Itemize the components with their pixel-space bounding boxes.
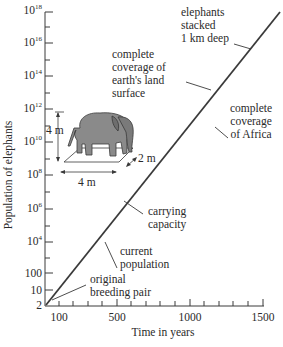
- y-tick-label-2: 2: [36, 299, 42, 311]
- annotation-original-breeding-pair: original breeding pair: [90, 273, 151, 299]
- elephant-inset: [55, 112, 137, 174]
- y-tick-label-1e8: 108: [27, 168, 42, 180]
- y-tick-label-1e6: 106: [27, 202, 42, 214]
- x-tick-label-1500: 1500: [252, 311, 275, 323]
- y-ticks: [45, 12, 53, 290]
- y-tick-label-1e14: 1014: [24, 69, 43, 81]
- y-tick-label-1e18: 1018: [24, 4, 43, 16]
- annotation-current-population: current population: [120, 245, 169, 271]
- y-tick-label-1e10: 1010: [24, 135, 43, 147]
- y-tick-label-1e16: 1016: [24, 36, 43, 48]
- y-tick-label-1e4: 104: [27, 235, 42, 247]
- inset-width-label: 4 m: [78, 176, 96, 189]
- x-ticks: [59, 299, 263, 306]
- annotation-coverage-earth: complete coverage of earth's land surfac…: [112, 48, 166, 100]
- x-axis-label: Time in years: [132, 326, 195, 338]
- annotation-coverage-africa: complete coverage of Africa: [230, 102, 272, 141]
- y-tick-label-100: 100: [25, 267, 42, 279]
- annotation-stacked-1km: elephants stacked 1 km deep: [181, 6, 229, 45]
- inset-height-label: 4 m: [46, 124, 64, 137]
- x-tick-label-100: 100: [50, 311, 67, 323]
- x-tick-label-1000: 1000: [179, 311, 202, 323]
- annotation-carrying-capacity: carrying capacity: [148, 205, 186, 231]
- inset-depth-label: 2 m: [138, 152, 156, 165]
- y-tick-label-10: 10: [31, 284, 43, 296]
- y-axis-label: Population of elephants: [2, 121, 14, 230]
- y-tick-label-1e12: 1012: [24, 102, 43, 114]
- x-tick-label-500: 500: [108, 311, 125, 323]
- chart: 1018 1016 1014 1012 1010 108 106 104 100…: [0, 0, 283, 347]
